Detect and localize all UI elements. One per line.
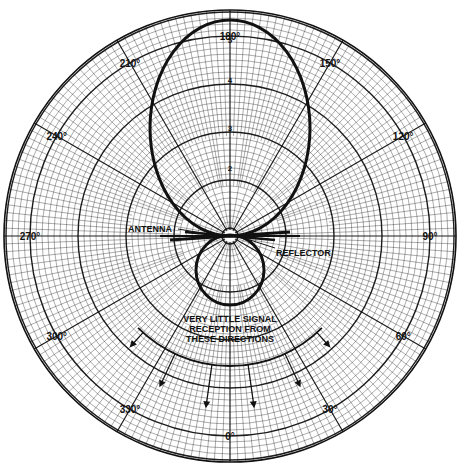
radial-label: 5 [228,36,233,45]
radial-label: 2 [228,164,233,173]
note-line-3: THESE DIRECTIONS [186,334,274,344]
note-line-1: VERY LITTLE SIGNAL [183,314,277,324]
angle-label: 240° [46,131,67,142]
angle-label: 0° [225,431,235,442]
reflector-label: REFLECTOR [276,248,331,258]
angle-label: 270° [20,231,41,242]
angle-label: 90° [422,231,437,242]
antenna-label: ANTENNA [128,224,172,234]
angle-label: 120° [393,131,414,142]
angle-label: 330° [120,404,141,415]
radial-label: 3 [228,124,233,133]
angle-label: 60° [396,331,411,342]
angle-label: 150° [320,58,341,69]
polar-antenna-pattern-chart: ANTENNA REFLECTOR VERY LITTLE SIGNAL REC… [0,0,460,473]
radial-label: 4 [228,76,233,85]
note-line-2: RECEPTION FROM [189,324,271,334]
angle-label: 30° [322,404,337,415]
angle-label: 300° [46,331,67,342]
angle-label: 210° [120,58,141,69]
